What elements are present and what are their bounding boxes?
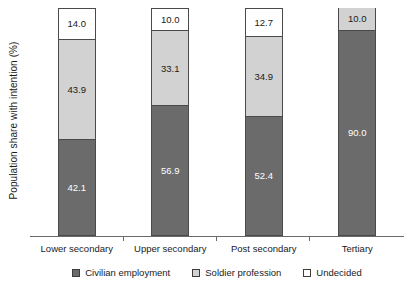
legend-item-undecided[interactable]: Undecided — [303, 267, 361, 278]
bar-segment-undecided[interactable]: 14.0 — [58, 8, 96, 40]
x-axis-tick-label: Tertiary — [312, 243, 402, 254]
legend-item-label: Undecided — [316, 267, 361, 278]
bar-stack-lower-secondary: 14.0 43.9 42.1 — [58, 8, 96, 236]
bar-stack-tertiary: 10.0 90.0 — [338, 8, 376, 236]
bar-segment-value: 42.1 — [68, 182, 87, 193]
x-axis-tick-label: Lower secondary — [32, 243, 122, 254]
bar-segment-soldier-profession[interactable]: 33.1 — [151, 31, 189, 106]
bar-segment-undecided[interactable]: 10.0 — [151, 8, 189, 31]
bar-segment-civilian-employment[interactable]: 90.0 — [338, 31, 376, 236]
legend-item-soldier-profession[interactable]: Soldier profession — [192, 267, 281, 278]
bar-stack-post-secondary: 12.7 34.9 52.4 — [245, 8, 283, 236]
bar-group-lower-secondary: 14.0 43.9 42.1 — [32, 8, 122, 236]
bar-group-tertiary: 10.0 90.0 — [312, 8, 402, 236]
plot-area: 14.0 43.9 42.1 10.0 33.1 — [30, 8, 404, 236]
bar-segment-civilian-employment[interactable]: 52.4 — [245, 117, 283, 236]
bar-segment-undecided[interactable]: 12.7 — [245, 8, 283, 37]
x-axis-tick — [216, 237, 217, 241]
legend-swatch-icon — [192, 269, 200, 277]
legend-item-label: Civilian employment — [85, 267, 170, 278]
bar-segment-value: 12.7 — [255, 17, 274, 28]
bar-segment-soldier-profession[interactable]: 10.0 — [338, 8, 376, 31]
x-axis-tick — [309, 237, 310, 241]
x-axis-tick-labels: Lower secondary Upper secondary Post sec… — [30, 243, 404, 254]
bar-segment-value: 56.9 — [161, 165, 180, 176]
legend-item-civilian-employment[interactable]: Civilian employment — [72, 267, 170, 278]
y-axis-title: Population share with intention (%) — [0, 0, 26, 240]
bar-segment-value: 14.0 — [68, 18, 87, 29]
x-axis-line — [30, 236, 404, 237]
bar-group-post-secondary: 12.7 34.9 52.4 — [219, 8, 309, 236]
bar-segment-soldier-profession[interactable]: 43.9 — [58, 40, 96, 140]
bar-segment-value: 90.0 — [348, 127, 367, 138]
bar-segment-civilian-employment[interactable]: 56.9 — [151, 106, 189, 236]
bars-row: 14.0 43.9 42.1 10.0 33.1 — [30, 8, 404, 236]
legend-item-label: Soldier profession — [205, 267, 281, 278]
x-axis-tick-label: Post secondary — [219, 243, 309, 254]
chart-legend: Civilian employment Soldier profession U… — [30, 267, 404, 278]
x-axis-tick-label: Upper secondary — [125, 243, 215, 254]
bar-segment-value: 33.1 — [161, 63, 180, 74]
bar-segment-value: 52.4 — [255, 170, 274, 181]
bar-group-upper-secondary: 10.0 33.1 56.9 — [125, 8, 215, 236]
bar-segment-value: 43.9 — [68, 84, 87, 95]
legend-swatch-icon — [303, 269, 311, 277]
bar-segment-value: 10.0 — [161, 14, 180, 25]
legend-swatch-icon — [72, 269, 80, 277]
y-axis-title-text: Population share with intention (%) — [8, 41, 19, 199]
bar-stack-upper-secondary: 10.0 33.1 56.9 — [151, 8, 189, 236]
bar-segment-value: 10.0 — [348, 13, 367, 24]
x-axis-tick — [123, 237, 124, 241]
bar-segment-soldier-profession[interactable]: 34.9 — [245, 37, 283, 117]
bar-segment-civilian-employment[interactable]: 42.1 — [58, 140, 96, 236]
stacked-bar-chart: Population share with intention (%) 14.0… — [0, 0, 409, 295]
bar-segment-value: 34.9 — [255, 71, 274, 82]
